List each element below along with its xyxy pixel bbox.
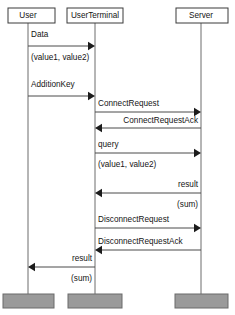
message-label-result-user: result <box>72 254 93 263</box>
message-data[interactable]: Data(value1, value2) <box>28 30 95 62</box>
message-label-query: query <box>98 140 119 149</box>
message-label-result-server: result <box>178 180 199 189</box>
message-sublabel-data: (value1, value2) <box>31 53 90 62</box>
message-addition-key[interactable]: AdditionKey <box>28 80 95 100</box>
message-query[interactable]: query(value1, value2) <box>95 140 201 169</box>
message-result-server[interactable]: result(sum) <box>95 180 201 209</box>
messages-layer: Data(value1, value2)AdditionKeyConnectRe… <box>28 30 201 283</box>
message-arrowhead-connect-request-ack <box>95 124 102 132</box>
message-label-disconnect-request: DisconnectRequest <box>98 215 170 224</box>
message-result-user[interactable]: result(sum) <box>28 254 95 283</box>
message-disconnect-request-ack[interactable]: DisconnectRequestAck <box>95 237 201 254</box>
message-label-connect-request-ack: ConnectRequestAck <box>123 116 199 125</box>
message-label-addition-key: AdditionKey <box>31 80 76 89</box>
lifeline-label-server: Server <box>189 11 213 20</box>
message-label-connect-request: ConnectRequest <box>98 99 160 108</box>
message-arrowhead-result-user <box>28 263 35 271</box>
lifeline-label-user: User <box>19 11 37 20</box>
message-label-disconnect-request-ack: DisconnectRequestAck <box>98 237 184 246</box>
lifeline-server[interactable]: Server <box>176 8 228 308</box>
message-arrowhead-result-server <box>95 189 102 197</box>
foot-bars-layer <box>3 294 228 308</box>
message-arrowhead-disconnect-request-ack <box>95 246 102 254</box>
message-arrowhead-data <box>88 42 95 50</box>
lifeline-label-user_terminal: UserTerminal <box>71 11 119 20</box>
sequence-diagram: UserUserTerminalServer Data(value1, valu… <box>0 0 235 315</box>
message-label-data: Data <box>31 30 49 39</box>
message-arrowhead-addition-key <box>88 92 95 100</box>
foot-bar-user-foot <box>3 294 54 308</box>
message-sublabel-query: (value1, value2) <box>98 160 157 169</box>
message-sublabel-result-server: (sum) <box>177 200 198 209</box>
message-arrowhead-disconnect-request <box>194 224 201 232</box>
message-arrowhead-connect-request <box>194 108 201 116</box>
message-connect-request[interactable]: ConnectRequest <box>95 99 201 116</box>
message-connect-request-ack[interactable]: ConnectRequestAck <box>95 116 201 132</box>
foot-bar-server-foot <box>175 294 228 308</box>
sequence-diagram-canvas: UserUserTerminalServer Data(value1, valu… <box>0 0 235 315</box>
message-sublabel-result-user: (sum) <box>71 274 92 283</box>
foot-bar-terminal-foot <box>68 294 122 308</box>
message-disconnect-request[interactable]: DisconnectRequest <box>95 215 201 232</box>
message-arrowhead-query <box>194 149 201 157</box>
